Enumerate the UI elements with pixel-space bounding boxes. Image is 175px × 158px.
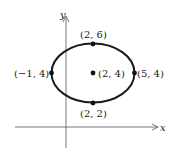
label-center: (2, 4) bbox=[98, 68, 125, 79]
point-left bbox=[49, 71, 54, 76]
point-top bbox=[91, 42, 96, 47]
label-top: (2, 6) bbox=[80, 29, 107, 40]
label-right: (5, 4) bbox=[137, 68, 164, 79]
ellipse-diagram: y x (2, 6) (2, 2) (−1, 4) (5, 4) (2, 4) bbox=[0, 0, 175, 158]
point-center bbox=[91, 71, 96, 76]
label-left: (−1, 4) bbox=[14, 68, 49, 79]
y-axis bbox=[63, 16, 69, 148]
label-bottom: (2, 2) bbox=[80, 108, 107, 119]
y-axis-label: y bbox=[59, 9, 66, 20]
x-axis bbox=[15, 124, 158, 130]
x-axis-label: x bbox=[160, 122, 166, 133]
point-bottom bbox=[91, 101, 96, 106]
